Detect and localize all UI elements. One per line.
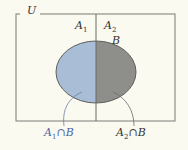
a2-intersect-b-label: A2∩B xyxy=(116,126,146,141)
region-a2-label: A2 xyxy=(104,19,116,34)
venn-diagram xyxy=(0,0,188,150)
a1-intersect-b-label: A1∩B xyxy=(44,126,74,141)
region-a1-label: A1 xyxy=(75,19,87,34)
universe-label: U xyxy=(27,4,36,17)
set-b-label: B xyxy=(112,34,120,47)
